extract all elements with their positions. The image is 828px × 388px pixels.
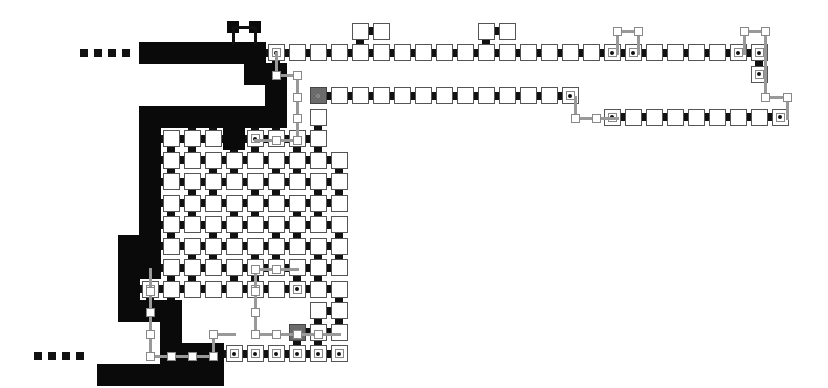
wire-node xyxy=(293,136,302,145)
dot-marker-icon xyxy=(778,115,782,119)
bottom-entry-dots xyxy=(34,352,42,360)
visited-path-cell xyxy=(202,364,224,386)
room-cell xyxy=(310,259,327,276)
wire-node xyxy=(272,265,281,274)
room-cell xyxy=(331,173,348,190)
dot-marker-icon xyxy=(316,352,320,356)
room-cell xyxy=(709,44,726,61)
visited-path-cell xyxy=(139,42,161,64)
maze-diagram xyxy=(0,0,828,388)
room-cell xyxy=(310,281,327,298)
room-cell xyxy=(415,87,432,104)
wire-node xyxy=(272,136,281,145)
dot-marker-icon xyxy=(610,51,614,55)
wire-node xyxy=(146,287,155,296)
wire-node xyxy=(293,71,302,80)
visited-path-cell xyxy=(265,85,287,107)
room-cell xyxy=(352,87,369,104)
visited-path-cell xyxy=(118,257,140,279)
room-cell xyxy=(310,109,327,126)
room-cell xyxy=(163,130,180,147)
dot-marker-icon xyxy=(736,51,740,55)
room-cell xyxy=(436,44,453,61)
room-cell xyxy=(205,259,222,276)
room-cell xyxy=(205,130,222,147)
marked-cell xyxy=(310,345,327,362)
visited-path-cell xyxy=(244,106,266,128)
visited-path-cell xyxy=(97,364,119,386)
visited-path-cell xyxy=(160,300,182,322)
wire-node xyxy=(761,27,770,36)
room-cell xyxy=(499,23,516,40)
room-cell xyxy=(646,109,663,126)
wire-node xyxy=(634,27,643,36)
room-cell xyxy=(184,216,201,233)
dot-marker-icon xyxy=(316,94,320,98)
dot-marker-icon xyxy=(274,352,278,356)
room-cell xyxy=(205,173,222,190)
wire-node xyxy=(761,93,770,102)
visited-path-cell xyxy=(139,128,161,150)
room-cell xyxy=(247,152,264,169)
wire-node xyxy=(314,330,323,339)
bridge-link xyxy=(254,27,257,45)
dot-marker-icon xyxy=(568,94,572,98)
room-cell xyxy=(520,87,537,104)
room-cell xyxy=(688,44,705,61)
wire-node xyxy=(293,93,302,102)
visited-path-cell xyxy=(202,106,224,128)
wire-node xyxy=(209,330,218,339)
room-cell xyxy=(289,173,306,190)
wire-node xyxy=(783,93,792,102)
wire-node xyxy=(293,114,302,123)
room-cell xyxy=(163,259,180,276)
wire-node xyxy=(146,308,155,317)
solution-wire xyxy=(149,355,215,358)
room-cell xyxy=(499,44,516,61)
room-cell xyxy=(331,259,348,276)
room-cell xyxy=(688,109,705,126)
bottom-entry-dots xyxy=(62,352,70,360)
room-cell xyxy=(478,23,495,40)
room-cell xyxy=(268,238,285,255)
visited-path-cell xyxy=(118,364,140,386)
wire-node xyxy=(251,330,260,339)
room-cell xyxy=(331,281,348,298)
room-cell xyxy=(457,44,474,61)
top-entry-dots xyxy=(108,49,116,57)
room-cell xyxy=(163,173,180,190)
room-cell xyxy=(541,44,558,61)
visited-path-cell xyxy=(160,364,182,386)
dot-marker-icon xyxy=(757,51,761,55)
room-cell xyxy=(373,23,390,40)
room-cell xyxy=(163,216,180,233)
dot-marker-icon xyxy=(232,352,236,356)
top-entry-dots xyxy=(122,49,130,57)
room-cell xyxy=(184,259,201,276)
room-cell xyxy=(331,238,348,255)
room-cell xyxy=(226,173,243,190)
dot-marker-icon xyxy=(631,51,635,55)
room-cell xyxy=(331,195,348,212)
room-cell xyxy=(352,23,369,40)
wire-node xyxy=(740,27,749,36)
visited-path-cell xyxy=(181,42,203,64)
marked-cell xyxy=(331,345,348,362)
room-cell xyxy=(184,152,201,169)
visited-path-cell xyxy=(160,106,182,128)
room-cell xyxy=(457,87,474,104)
room-cell xyxy=(667,44,684,61)
dot-marker-icon xyxy=(337,352,341,356)
visited-path-cell xyxy=(139,192,161,214)
room-cell xyxy=(310,238,327,255)
bottom-entry-dots xyxy=(48,352,56,360)
room-cell xyxy=(331,152,348,169)
room-cell xyxy=(205,195,222,212)
bottom-entry-dots xyxy=(76,352,84,360)
room-cell xyxy=(478,87,495,104)
room-cell xyxy=(436,87,453,104)
room-cell xyxy=(163,281,180,298)
visited-path-cell xyxy=(118,300,140,322)
room-cell xyxy=(289,195,306,212)
room-cell xyxy=(247,173,264,190)
